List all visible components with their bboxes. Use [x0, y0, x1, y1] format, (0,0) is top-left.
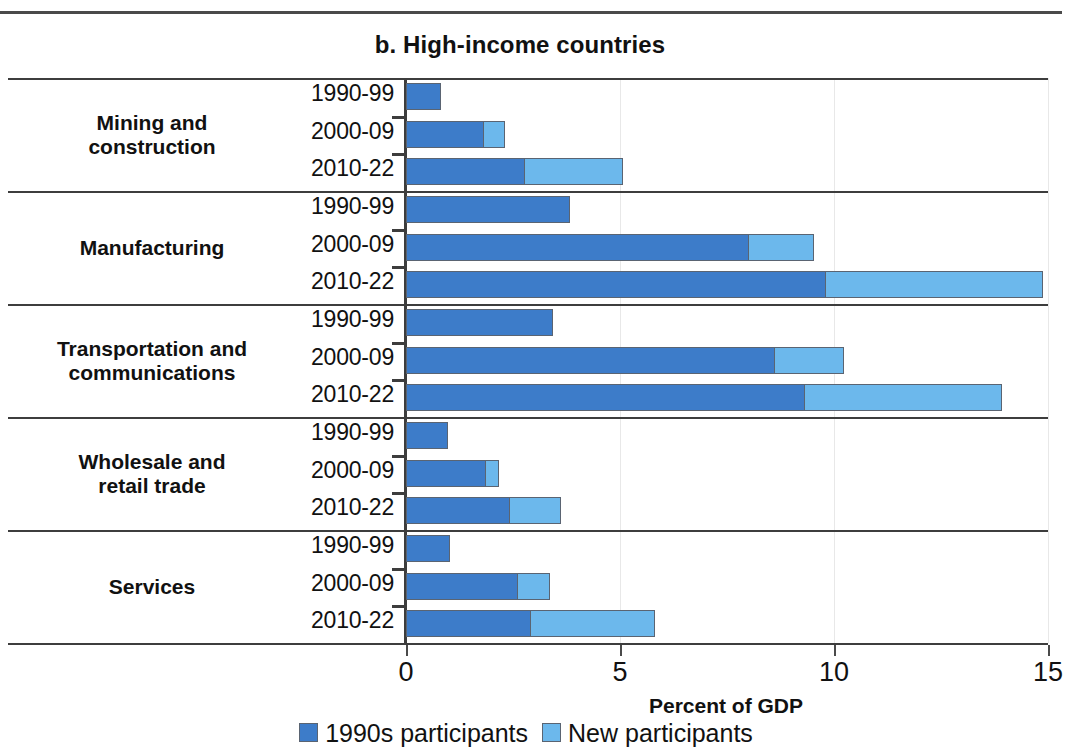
- x-axis-tick: [406, 645, 408, 656]
- period-label: 2000-09: [254, 457, 394, 484]
- period-label: 2010-22: [254, 155, 394, 182]
- table-row: [406, 158, 622, 185]
- table-row: [406, 196, 569, 223]
- period-label: 1990-99: [254, 306, 394, 333]
- bar-segment-new-participants: [509, 497, 561, 524]
- group-separator: [8, 78, 1048, 80]
- period-label: 1990-99: [254, 419, 394, 446]
- category-label: Mining andconstruction: [12, 111, 292, 160]
- group-separator: [8, 304, 1048, 306]
- x-axis-tick-label: 0: [376, 657, 436, 688]
- bar-segment-1990s-participants: [406, 271, 826, 298]
- table-row: [406, 422, 447, 449]
- table-row: [406, 234, 813, 261]
- chart-legend: 1990s participantsNew participants: [0, 716, 1052, 748]
- bar-segment-1990s-participants: [406, 196, 570, 223]
- table-row: [406, 497, 560, 524]
- period-label: 1990-99: [254, 80, 394, 107]
- period-label: 2010-22: [254, 268, 394, 295]
- bar-segment-new-participants: [825, 271, 1042, 298]
- table-row: [406, 309, 552, 336]
- legend-item: 1990s participants: [299, 717, 528, 748]
- bar-segment-new-participants: [530, 610, 655, 637]
- bar-segment-1990s-participants: [406, 83, 441, 110]
- table-row: [406, 573, 549, 600]
- legend-label: 1990s participants: [325, 719, 528, 748]
- category-label-line: Services: [12, 575, 292, 599]
- group-separator: [8, 530, 1048, 532]
- category-label: Manufacturing: [12, 236, 292, 260]
- period-label: 2000-09: [254, 570, 394, 597]
- period-label: 2010-22: [254, 381, 394, 408]
- table-row: [406, 347, 843, 374]
- legend-item: New participants: [542, 717, 753, 748]
- x-axis-tick-label: 15: [1018, 657, 1067, 688]
- category-label-line: communications: [12, 361, 292, 385]
- table-row: [406, 384, 1001, 411]
- category-label-line: Mining and: [12, 111, 292, 135]
- x-axis-tick: [1048, 645, 1050, 656]
- y-axis-tick: [392, 568, 405, 571]
- bar-segment-1990s-participants: [406, 384, 805, 411]
- bar-segment-new-participants: [483, 121, 505, 148]
- category-label-line: retail trade: [12, 474, 292, 498]
- bar-segment-1990s-participants: [406, 121, 484, 148]
- period-label: 1990-99: [254, 532, 394, 559]
- bar-segment-new-participants: [485, 460, 499, 487]
- category-label-line: construction: [12, 135, 292, 159]
- bar-segment-1990s-participants: [406, 234, 749, 261]
- group-separator: [8, 191, 1048, 193]
- table-row: [406, 83, 440, 110]
- table-row: [406, 460, 498, 487]
- category-label-line: Manufacturing: [12, 236, 292, 260]
- table-row: [406, 271, 1042, 298]
- gridline: [1048, 78, 1049, 643]
- period-label: 2010-22: [254, 494, 394, 521]
- bar-segment-1990s-participants: [406, 309, 553, 336]
- bar-segment-1990s-participants: [406, 460, 486, 487]
- period-label: 2010-22: [254, 607, 394, 634]
- bar-segment-1990s-participants: [406, 535, 450, 562]
- y-axis-tick: [392, 379, 405, 382]
- bar-segment-new-participants: [804, 384, 1002, 411]
- y-axis-tick: [392, 153, 405, 156]
- x-axis-tick: [620, 645, 622, 656]
- y-axis-tick: [392, 605, 405, 608]
- period-label: 2000-09: [254, 344, 394, 371]
- category-label-line: Transportation and: [12, 337, 292, 361]
- y-axis-tick: [392, 492, 405, 495]
- table-row: [406, 610, 654, 637]
- bar-segment-new-participants: [748, 234, 813, 261]
- category-label-line: Wholesale and: [12, 450, 292, 474]
- category-label: Services: [12, 575, 292, 599]
- bar-segment-1990s-participants: [406, 158, 525, 185]
- category-label: Transportation andcommunications: [12, 337, 292, 386]
- x-axis-tick-label: 10: [804, 657, 864, 688]
- y-axis-tick: [392, 266, 405, 269]
- y-axis-tick: [392, 116, 405, 119]
- bar-segment-1990s-participants: [406, 347, 775, 374]
- y-axis-tick: [392, 455, 405, 458]
- legend-swatch-icon: [299, 723, 318, 742]
- table-row: [406, 121, 504, 148]
- legend-swatch-icon: [542, 723, 561, 742]
- x-axis-title: Percent of GDP: [404, 694, 1048, 718]
- bar-segment-1990s-participants: [406, 497, 510, 524]
- bar-segment-1990s-participants: [406, 422, 448, 449]
- legend-label: New participants: [568, 719, 753, 748]
- group-separator: [8, 643, 1048, 645]
- bar-segment-1990s-participants: [406, 573, 518, 600]
- bar-segment-1990s-participants: [406, 610, 531, 637]
- y-axis-tick: [392, 342, 405, 345]
- category-label: Wholesale andretail trade: [12, 450, 292, 499]
- y-axis-tick: [392, 229, 405, 232]
- bar-segment-new-participants: [524, 158, 623, 185]
- bar-segment-new-participants: [517, 573, 550, 600]
- x-axis-tick-label: 5: [590, 657, 650, 688]
- period-label: 1990-99: [254, 193, 394, 220]
- period-label: 2000-09: [254, 118, 394, 145]
- x-axis-tick: [834, 645, 836, 656]
- group-separator: [8, 417, 1048, 419]
- bar-segment-new-participants: [774, 347, 843, 374]
